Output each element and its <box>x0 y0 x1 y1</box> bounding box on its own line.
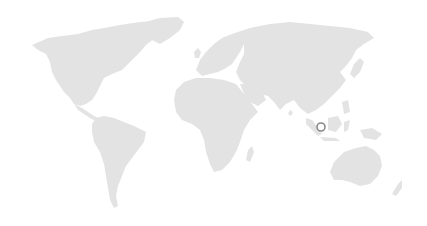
central-america <box>74 104 98 121</box>
land-masses <box>32 17 402 208</box>
world-map <box>0 0 427 226</box>
south-america <box>92 116 146 208</box>
new-guinea <box>360 128 382 140</box>
singapore-marker[interactable] <box>317 123 325 131</box>
uk <box>194 48 201 58</box>
java <box>320 137 340 141</box>
sulawesi <box>344 120 350 132</box>
philippines <box>342 100 350 114</box>
sri-lanka <box>288 110 293 116</box>
new-zealand <box>392 180 402 196</box>
borneo <box>328 116 342 132</box>
world-map-svg <box>0 0 427 226</box>
markers <box>317 123 325 131</box>
madagascar <box>246 146 254 162</box>
europe <box>196 34 244 76</box>
sumatra <box>306 118 322 136</box>
japan <box>350 58 364 78</box>
australia <box>330 146 382 186</box>
